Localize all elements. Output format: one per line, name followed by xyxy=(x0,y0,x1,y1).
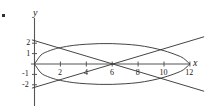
x-tick-label: 2 xyxy=(58,69,62,77)
y-tick-label: 1 xyxy=(26,50,30,58)
x-axis-label: x xyxy=(193,58,197,68)
y-axis-label: y xyxy=(33,8,37,18)
curve-closed-loop-upper xyxy=(35,44,190,64)
x-tick-label: 6 xyxy=(110,69,114,77)
y-tick-label: -2 xyxy=(22,81,29,89)
x-tick-label: 12 xyxy=(185,69,193,77)
chart-figure: y x 2468101221-1-2 xyxy=(0,0,209,112)
y-tick-label: -1 xyxy=(22,70,29,78)
curve-rising-line xyxy=(32,37,204,88)
plot-canvas xyxy=(0,0,209,112)
curve-falling-line xyxy=(32,40,204,91)
x-tick-label: 8 xyxy=(136,69,140,77)
x-tick-label: 10 xyxy=(159,69,167,77)
axis-lines xyxy=(31,18,190,106)
y-tick-label: 2 xyxy=(26,39,30,47)
x-tick-label: 4 xyxy=(84,69,88,77)
